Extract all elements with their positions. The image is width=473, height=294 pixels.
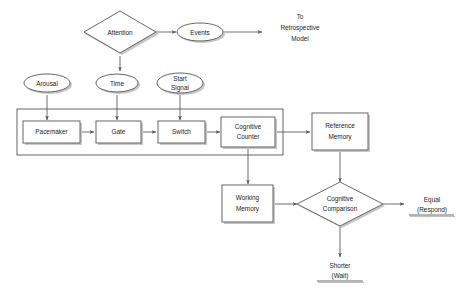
equal-outcome-line2: (Respond)	[417, 206, 447, 214]
annotation-equal-respond: Equal (Respond)	[409, 196, 455, 217]
node-working-memory[interactable]: Working Memory	[222, 185, 275, 224]
node-cognitive-comparison[interactable]: Cognitive Comparison	[297, 182, 385, 228]
annotation-shorter-wait: Shorter (Wait)	[317, 262, 364, 283]
start-signal-label-line2: Signal	[171, 84, 189, 92]
time-label: Time	[110, 80, 124, 87]
node-time[interactable]: Time	[96, 74, 140, 94]
retrospective-line1: To	[297, 13, 304, 20]
pacemaker-label: Pacemaker	[35, 128, 68, 135]
working-memory-label-line1: Working	[236, 194, 260, 202]
node-events[interactable]: Events	[177, 23, 225, 43]
equal-outcome-line1: Equal	[424, 196, 440, 204]
node-gate[interactable]: Gate	[96, 121, 143, 145]
node-cognitive-counter[interactable]: Cognitive Counter	[221, 117, 277, 149]
cognitive-comparison-label-line1: Cognitive	[327, 195, 354, 203]
start-signal-label-line1: Start	[173, 75, 187, 82]
node-switch[interactable]: Switch	[158, 121, 207, 145]
attention-label: Attention	[107, 29, 133, 36]
gate-label: Gate	[112, 128, 126, 135]
events-label: Events	[190, 29, 210, 36]
shorter-outcome-line2: (Wait)	[332, 272, 349, 280]
diagram-canvas: Attention Events Arousal Time Start Sign…	[0, 0, 473, 294]
arousal-label: Arousal	[36, 80, 58, 87]
shorter-outcome-line1: Shorter	[330, 262, 352, 269]
cognitive-comparison-label-line2: Comparison	[323, 205, 358, 213]
node-pacemaker[interactable]: Pacemaker	[23, 121, 82, 145]
cognitive-counter-label-line2: Counter	[237, 133, 261, 140]
flowchart-diagram: Attention Events Arousal Time Start Sign…	[0, 0, 473, 294]
retrospective-line2: Retrospective	[280, 24, 320, 32]
node-reference-memory[interactable]: Reference Memory	[312, 113, 370, 152]
reference-memory-rect-shape	[312, 113, 368, 150]
reference-memory-label-line2: Memory	[328, 133, 352, 141]
working-memory-label-line2: Memory	[236, 205, 260, 213]
node-attention[interactable]: Attention	[84, 11, 159, 55]
switch-label: Switch	[172, 128, 191, 135]
retrospective-line3: Model	[291, 35, 308, 42]
cognitive-counter-label-line1: Cognitive	[235, 123, 262, 131]
annotation-retrospective-model: To Retrospective Model	[280, 13, 320, 42]
working-memory-rect-shape	[222, 185, 273, 222]
reference-memory-label-line1: Reference	[325, 122, 355, 129]
node-start-signal[interactable]: Start Signal	[157, 73, 205, 95]
node-arousal[interactable]: Arousal	[24, 74, 72, 94]
